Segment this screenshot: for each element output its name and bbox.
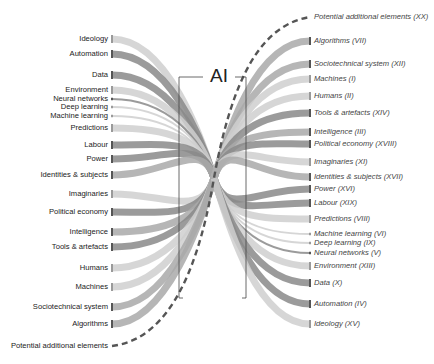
tick-right-data-x: [309, 279, 311, 287]
right-label-tools-artefacts-xiv: Tools & artefacts (XIV): [314, 108, 390, 117]
right-label-humans-ii: Humans (II): [314, 91, 354, 100]
tick-left-automation: [111, 50, 113, 58]
tick-right-environment-xiii: [309, 262, 311, 270]
tick-left-data: [111, 71, 113, 79]
tick-right-deep-learning-ix: [309, 242, 311, 245]
ai-relational-diagram: AI IdeologyAutomationDataEnvironmentNeur…: [0, 0, 434, 364]
right-label-environment-xiii: Environment (XIII): [314, 261, 376, 270]
tick-right-imaginaries-xi: [309, 158, 311, 166]
tick-right-intelligence-iii: [309, 128, 311, 136]
tick-left-ideology: [111, 35, 113, 43]
right-label-predictions-viii: Predictions (VIII): [314, 214, 371, 223]
tick-right-algorithms-vii: [309, 37, 311, 45]
left-label-environment: Environment: [65, 85, 109, 94]
tick-left-power: [111, 155, 113, 163]
tick-left-deep-learning: [111, 106, 113, 109]
tick-left-imaginaries: [111, 190, 113, 198]
right-label-automation-iv: Automation (IV): [313, 299, 367, 308]
left-label-power: Power: [86, 154, 108, 163]
tick-right-machines-i: [309, 75, 311, 83]
right-label-data-x: Data (X): [314, 278, 343, 287]
tick-right-tools-artefacts-xiv: [309, 109, 311, 117]
tick-right-ideology-xv: [309, 320, 311, 328]
left-labels: IdeologyAutomationDataEnvironmentNeural …: [33, 34, 109, 328]
tick-right-political-economy-xviii: [309, 140, 311, 148]
band-left-identities-subjects: [112, 159, 214, 178]
tick-left-tools-artefacts: [111, 243, 113, 251]
right-label-political-economy-xviii: Political economy (XVIII): [314, 139, 397, 148]
tick-left-sociotechnical-system: [111, 303, 113, 311]
tick-right-neural-networks-v: [309, 252, 311, 255]
right-label-intelligence-iii: Intelligence (III): [314, 127, 366, 136]
tick-right-automation-iv: [309, 300, 311, 308]
left-label-political-economy: Political economy: [49, 207, 108, 216]
tick-right-sociotechnical-system-xii: [309, 60, 311, 68]
left-label-automation: Automation: [70, 49, 108, 58]
right-label-machines-i: Machines (I): [314, 74, 356, 83]
right-label-labour-xix: Labour (XIX): [314, 198, 358, 207]
tick-right-humans-ii: [309, 92, 311, 100]
left-label-identities-subjects: Identities & subjects: [40, 170, 108, 179]
right-label-identities-subjects-xvii: Identities & subjects (XVII): [314, 172, 404, 181]
left-label-data: Data: [92, 70, 109, 79]
left-label-predictions: Predictions: [70, 123, 108, 132]
left-label-intelligence: Intelligence: [70, 227, 108, 236]
right-label-ideology-xv: Ideology (XV): [314, 319, 360, 328]
left-label-machine-learning: Machine learning: [50, 111, 108, 120]
left-label-humans: Humans: [80, 263, 108, 272]
left-label-imaginaries: Imaginaries: [69, 189, 108, 198]
right-potential-label: Potential additional elements (XX): [314, 12, 429, 21]
tick-left-neural-networks: [111, 98, 113, 101]
left-label-algorithms: Algorithms: [72, 319, 108, 328]
left-potential-label: Potential additional elements: [11, 341, 108, 350]
right-label-imaginaries-xi: Imaginaries (XI): [314, 157, 368, 166]
right-label-sociotechnical-system-xii: Sociotechnical system (XII): [314, 59, 406, 68]
tick-right-machine-learning-vi: [309, 233, 311, 236]
tick-left-intelligence: [111, 228, 113, 236]
right-label-deep-learning-ix: Deep learning (IX): [314, 238, 376, 247]
right-label-algorithms-vii: Algorithms (VII): [313, 36, 367, 45]
left-label-tools-artefacts: Tools & artefacts: [52, 242, 108, 251]
tick-left-environment: [111, 86, 113, 94]
tick-right-identities-subjects-xvii: [309, 173, 311, 181]
left-label-labour: Labour: [84, 140, 108, 149]
tick-left-predictions: [111, 124, 113, 132]
ai-title: AI: [210, 65, 228, 86]
left-label-sociotechnical-system: Sociotechnical system: [33, 302, 108, 311]
tick-left-labour: [111, 141, 113, 149]
right-label-neural-networks-v: Neural networks (V): [314, 248, 382, 257]
tick-left-algorithms: [111, 320, 113, 328]
tick-left-humans: [111, 264, 113, 272]
right-labels: Algorithms (VII)Sociotechnical system (X…: [313, 36, 406, 328]
right-label-machine-learning-vi: Machine learning (VI): [314, 229, 387, 238]
tick-right-labour-xix: [309, 199, 311, 207]
left-label-ideology: Ideology: [79, 34, 108, 43]
tick-right-predictions-viii: [309, 215, 311, 223]
tick-left-machine-learning: [111, 115, 113, 118]
right-label-power-xvi: Power (XVI): [314, 184, 355, 193]
left-label-machines: Machines: [76, 282, 109, 291]
tick-left-political-economy: [111, 208, 113, 216]
left-label-deep-learning: Deep learning: [61, 102, 108, 111]
tick-right-power-xvi: [309, 185, 311, 193]
tick-left-machines: [111, 283, 113, 291]
tick-left-identities-subjects: [111, 171, 113, 179]
